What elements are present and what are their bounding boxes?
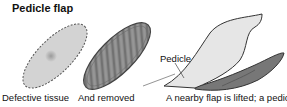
caption-and-removed: And removed	[78, 92, 135, 103]
removed-tissue-shape	[74, 13, 160, 99]
pedicle-flap-illustration	[0, 0, 287, 107]
pedicle-label: Pedicle	[160, 53, 191, 64]
caption-defective-tissue: Defective tissue	[2, 92, 69, 103]
caption-nearby-flap: A nearby flap is lifted; a pedicle	[166, 92, 287, 103]
